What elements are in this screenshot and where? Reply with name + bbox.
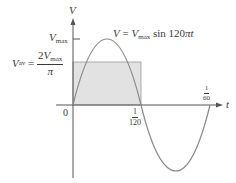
vav-denominator: π — [47, 65, 53, 77]
vav-main: V — [12, 58, 19, 69]
v-axis-label: V — [69, 5, 76, 16]
equation-label: V = Vmax sin 120πt — [113, 28, 194, 41]
equation-var: t — [191, 27, 194, 39]
average-value-region — [73, 62, 141, 105]
equation-coef-sub: max — [138, 33, 150, 41]
equation-rhs: sin 120 — [150, 27, 185, 39]
origin-label: 0 — [63, 108, 68, 118]
vav-num-sub: max — [50, 55, 62, 63]
t-axis-label: t — [226, 99, 229, 110]
v-axis-arrow-icon — [71, 18, 76, 25]
t-axis-arrow-icon — [216, 103, 223, 108]
vav-sub: av — [19, 60, 26, 67]
vav-equals: = — [25, 58, 37, 69]
vmax-label: Vmax — [49, 32, 68, 45]
tick-period-num: 1 — [204, 85, 210, 94]
tick-half-num: 1 — [132, 108, 138, 118]
vav-label: Vav = 2Vmax π — [12, 50, 63, 77]
vav-fraction: 2Vmax π — [37, 50, 63, 77]
vmax-main: V — [49, 31, 56, 43]
equation-lhs: V — [113, 27, 120, 39]
tick-label-period: 1 60 — [203, 85, 210, 102]
tick-label-half-period: 1 120 — [129, 108, 141, 127]
vmax-sub: max — [56, 37, 68, 45]
tick-half-den: 120 — [129, 118, 141, 127]
tick-period-den: 60 — [203, 94, 210, 102]
equation-equals: = — [120, 27, 132, 39]
